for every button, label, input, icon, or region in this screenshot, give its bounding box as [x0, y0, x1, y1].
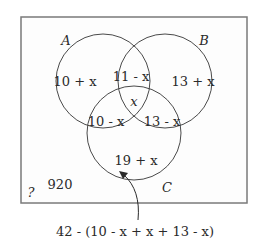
outside-value: 920: [48, 178, 73, 191]
region-a-and-b: 11 - x: [113, 70, 150, 83]
venn-diagram: A B C 10 + x 11 - x 13 + x x 10 - x 13 -…: [0, 0, 264, 248]
universe-frame: [21, 17, 247, 203]
annotation-text: 42 - (10 - x + x + 13 - x): [56, 225, 214, 238]
region-only-a: 10 + x: [53, 75, 96, 88]
region-a-b-c: x: [130, 95, 137, 108]
region-only-c: 19 + x: [114, 154, 157, 167]
venn-diagram-graphic: [0, 0, 264, 248]
region-only-b: 13 + x: [171, 75, 214, 88]
set-b-label: B: [199, 34, 209, 47]
set-a-label: A: [61, 34, 70, 47]
region-b-and-c: 13 - x: [144, 115, 181, 128]
region-a-and-c: 10 - x: [88, 115, 125, 128]
set-c-label: C: [162, 181, 172, 194]
universe-label: ?: [28, 186, 35, 199]
